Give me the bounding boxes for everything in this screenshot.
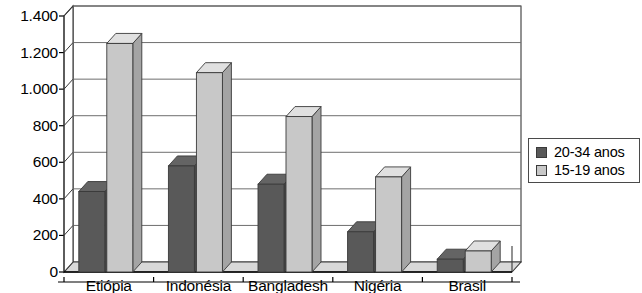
bar-indon-sia-20-34-anos [168, 166, 194, 272]
x-axis-category-label: Nigéria [333, 278, 423, 293]
bar-eti-pia-20-34-anos [79, 192, 105, 272]
bar-brasil-15-19-anos [465, 251, 491, 272]
x-axis-category-label: Brasil [422, 278, 512, 293]
plot-left-wall [64, 6, 73, 272]
bar-chart: 02004006008001.0001.2001.400 EtiópiaIndo… [0, 0, 642, 293]
bar-side-face [402, 167, 411, 272]
bar-nig-ria-15-19-anos [376, 177, 402, 272]
bar-side-face [133, 33, 142, 272]
legend-item-0: 20-34 anos [536, 143, 639, 161]
legend-label-15-19-anos: 15-19 anos [554, 163, 625, 178]
legend-swatch-15-19-anos [536, 165, 547, 176]
legend: 20-34 anos 15-19 anos [528, 138, 640, 183]
bar-indon-sia-15-19-anos [196, 73, 222, 272]
x-axis-category-label: Etiópia [64, 278, 154, 293]
legend-label-20-34-anos: 20-34 anos [554, 145, 625, 160]
bar-bangladesh-20-34-anos [258, 184, 284, 272]
chart-geometry [58, 6, 521, 282]
bar-nig-ria-20-34-anos [348, 232, 374, 272]
x-axis-category-label: Indonésia [154, 278, 244, 293]
bar-eti-pia-15-19-anos [107, 43, 133, 272]
legend-item-1: 15-19 anos [536, 161, 639, 179]
x-axis-labels: EtiópiaIndonésiaBangladeshNigériaBrasil [0, 278, 642, 293]
bar-brasil-20-34-anos [437, 259, 463, 272]
x-axis-category-label: Bangladesh [243, 278, 333, 293]
bar-side-face [312, 107, 321, 272]
bar-bangladesh-15-19-anos [286, 117, 312, 272]
legend-swatch-20-34-anos [536, 147, 547, 158]
bar-side-face [222, 63, 231, 272]
